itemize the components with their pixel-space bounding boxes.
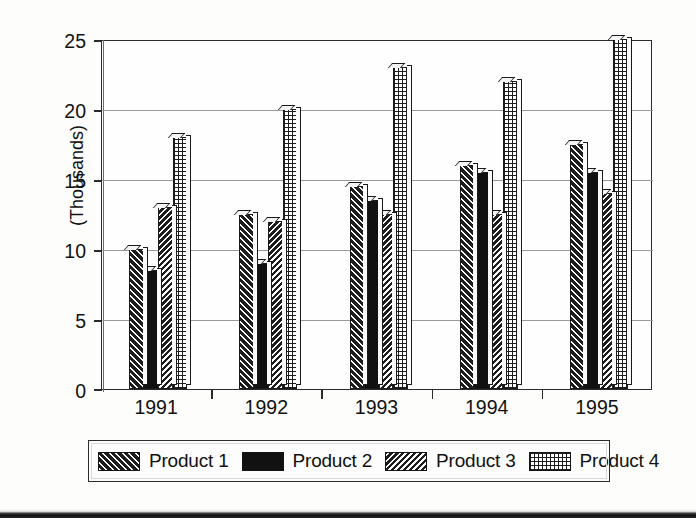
bar-top-face [234,210,251,215]
x-tick [321,390,322,399]
bar-1994-product-1 [460,165,475,389]
y-tick [94,320,102,322]
y-tick-label: 25 [46,30,86,53]
chart-legend: Product 1 Product 2 Product 3 Product 4 [88,440,610,482]
x-tick [211,390,212,399]
legend-swatch-product-4 [529,452,571,471]
legend-swatch-product-2 [242,452,284,471]
y-tick-label: 0 [46,380,86,403]
bar-side-face [253,212,258,385]
x-tick [432,390,433,399]
x-tick-label-1991: 1991 [116,396,196,419]
x-tick-label-1993: 1993 [337,396,417,419]
scanned-page: 25 20 15 10 5 0 (Thousands) 199119921993… [0,0,696,518]
bar-side-face [186,135,191,385]
y-tick [94,389,102,391]
scan-edge-dark [0,511,696,518]
bar-top-face [344,182,361,187]
bar-top-face [608,35,625,40]
bar-side-face [627,37,632,385]
bar-top-face [153,203,170,208]
bar-side-face [612,191,617,385]
x-tick-label-1994: 1994 [447,396,527,419]
y-tick [94,40,102,42]
bar-side-face [583,142,588,385]
y-axis-title: (Thousands) [67,91,88,261]
bar-side-face [267,261,272,385]
legend-swatch-product-1 [98,452,140,471]
bar-top-face [124,245,141,250]
bar-side-face [363,184,368,385]
bar-side-face [296,107,301,385]
bar-top-face [388,63,405,68]
bar-top-face [454,161,471,166]
legend-label-product-3: Product 3 [436,450,516,472]
bar-side-face [488,170,493,385]
bar-side-face [282,219,287,385]
legend-label-product-2: Product 2 [293,450,373,472]
legend-swatch-product-3 [385,452,427,471]
bar-side-face [407,65,412,385]
legend-entry-product-3: Product 3 [385,450,516,472]
bar-top-face [565,140,582,145]
bar-side-face [378,198,383,385]
bar-1992-product-1 [239,214,254,389]
legend-label-product-4: Product 4 [580,450,660,472]
bar-top-face [263,217,280,222]
bar-top-face [167,133,184,138]
bar-side-face [517,79,522,385]
bar-top-face [498,77,515,82]
x-tick-label-1995: 1995 [557,396,637,419]
legend-entry-product-4: Product 4 [529,450,660,472]
legend-entry-product-2: Product 2 [242,450,373,472]
bar-side-face [473,163,478,385]
y-tick-label: 5 [46,310,86,333]
bar-top-face [278,105,295,110]
bar-side-face [598,170,603,385]
bar-side-face [143,247,148,385]
legend-label-product-1: Product 1 [149,450,229,472]
plot-area [101,40,652,390]
bar-side-face [502,212,507,385]
legend-entry-product-1: Product 1 [98,450,229,472]
bar-1993-product-1 [350,186,365,389]
y-tick [94,250,102,252]
bar-1991-product-1 [129,249,144,389]
y-tick [94,180,102,182]
y-tick [94,110,102,112]
bar-side-face [172,205,177,385]
bar-side-face [392,212,397,385]
x-tick-label-1992: 1992 [226,396,306,419]
bar-1995-product-1 [570,144,585,389]
bar-side-face [157,268,162,385]
x-tick [542,390,543,399]
gridline [102,110,653,111]
